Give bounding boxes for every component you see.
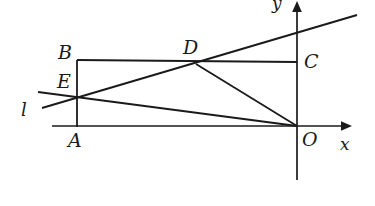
point-label-O: O	[302, 130, 318, 149]
geometry-figure: A B C D E O l x y	[0, 0, 375, 206]
diagram-canvas	[0, 0, 375, 206]
segment-DO	[196, 64, 297, 126]
y-axis	[292, 1, 302, 180]
y-axis-arrowhead	[292, 1, 302, 12]
x-axis-arrowhead	[341, 121, 352, 131]
point-label-A: A	[68, 131, 82, 150]
x-axis-label: x	[340, 136, 350, 153]
y-axis-label: y	[272, 0, 282, 12]
line-label-l: l	[21, 101, 27, 119]
point-label-B: B	[58, 43, 72, 62]
point-label-E: E	[57, 72, 71, 91]
point-label-D: D	[183, 38, 198, 57]
segment-BC	[77, 60, 297, 62]
point-label-C: C	[304, 52, 319, 71]
